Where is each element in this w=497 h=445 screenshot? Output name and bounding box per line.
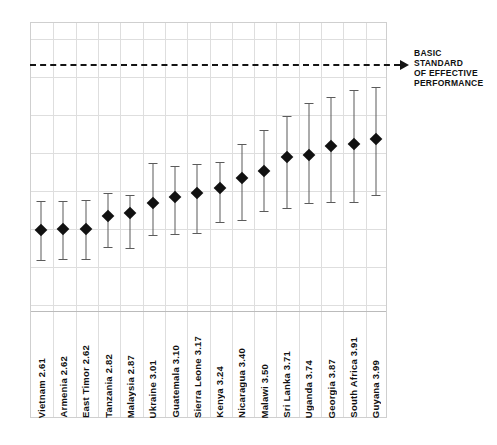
category-axis-labels: Vietnam 2.61Armenia 2.62East Timor 2.62T… (30, 310, 387, 418)
horizontal-gridline (31, 267, 386, 268)
category-label-cell: East Timor 2.62 (75, 310, 97, 418)
category-label-text: Vietnam 2.61 (36, 356, 47, 418)
category-label-cell: Sierra Leone 3.17 (186, 310, 208, 418)
category-label-cell: Malaysia 2.87 (119, 310, 141, 418)
category-label-text: Tanzania 2.82 (103, 352, 114, 418)
category-label-text: Guatemala 3.10 (170, 343, 181, 418)
category-label-text: Malaysia 2.87 (125, 353, 136, 418)
category-label-text: Sri Lanka 3.71 (281, 349, 292, 418)
category-label-text: East Timor 2.62 (80, 343, 91, 418)
category-label-cell: South Africa 3.91 (342, 310, 364, 418)
category-label-cell: Guatemala 3.10 (164, 310, 186, 418)
category-label-text: Uganda 3.74 (303, 358, 314, 418)
category-label-text: South Africa 3.91 (348, 335, 359, 418)
horizontal-gridline (31, 305, 386, 306)
category-label-text: Georgia 3.87 (326, 357, 337, 418)
horizontal-gridline (31, 229, 386, 230)
category-label-cell: Nicaragua 3.40 (231, 310, 253, 418)
horizontal-gridline (31, 153, 386, 154)
category-label-cell: Sri Lanka 3.71 (275, 310, 297, 418)
category-label-cell: Guyana 3.99 (365, 310, 387, 418)
category-label-text: Ukraine 3.01 (147, 358, 158, 418)
category-label-text: Kenya 3.24 (214, 364, 225, 418)
category-label-cell: Armenia 2.62 (52, 310, 74, 418)
category-label-text: Malawi 3.50 (259, 362, 270, 418)
horizontal-gridline (31, 77, 386, 78)
category-label-cell: Georgia 3.87 (320, 310, 342, 418)
chart-root: BASIC STANDARD OF EFFECTIVE PERFORMANCE … (0, 0, 497, 445)
reference-line-arrow-icon (400, 60, 409, 70)
horizontal-gridline (31, 39, 386, 40)
category-label-cell: Vietnam 2.61 (30, 310, 52, 418)
category-label-cell: Ukraine 3.01 (142, 310, 164, 418)
category-label-cell: Kenya 3.24 (209, 310, 231, 418)
category-label-cell: Uganda 3.74 (298, 310, 320, 418)
horizontal-gridline (31, 191, 386, 192)
category-label-cell: Malawi 3.50 (253, 310, 275, 418)
category-label-text: Nicaragua 3.40 (236, 346, 247, 418)
basic-standard-reference-line (30, 64, 400, 66)
category-label-text: Armenia 2.62 (58, 354, 69, 418)
category-label-cell: Tanzania 2.82 (97, 310, 119, 418)
horizontal-gridline (31, 115, 386, 116)
category-label-text: Sierra Leone 3.17 (192, 334, 203, 418)
reference-line-annotation-label: BASIC STANDARD OF EFFECTIVE PERFORMANCE (414, 48, 483, 89)
category-label-text: Guyana 3.99 (370, 358, 381, 418)
